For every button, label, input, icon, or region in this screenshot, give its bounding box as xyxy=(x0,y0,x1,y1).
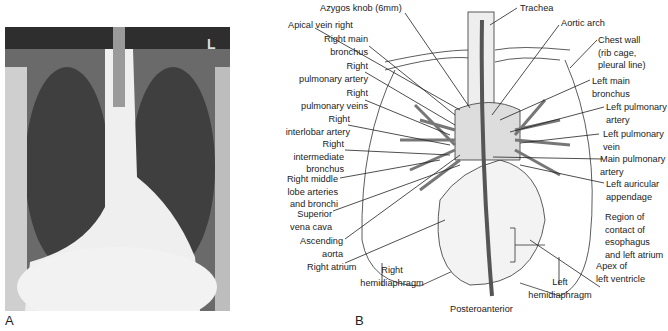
label-right-interlobar-artery: Rightinterlobar artery xyxy=(270,113,350,138)
label-right-pulmonary-veins: Rightpulmonary veins xyxy=(280,87,368,112)
label-right-main-bronchus: Right mainbronchus xyxy=(290,33,368,58)
label-trachea: Trachea xyxy=(520,2,553,15)
label-apical-vein-right: Apical vein right xyxy=(288,19,353,32)
label-aortic-arch: Aortic arch xyxy=(561,17,605,30)
label-right-pulmonary-artery: Rightpulmonary artery xyxy=(280,60,368,85)
label-right-middle-lobe: Right middlelobe arteriesand bronchi xyxy=(260,173,338,211)
label-region-of-contact: Region ofcontact ofesophagusand left atr… xyxy=(605,211,663,261)
label-apex-left-ventricle: Apex ofleft ventricle xyxy=(596,260,645,285)
label-left-main-bronchus: Left mainbronchus xyxy=(592,75,630,100)
label-left-pulmonary-artery: Left pulmonaryartery xyxy=(606,101,667,126)
label-left-hemidiaphragm: Lefthemidiaphragm xyxy=(520,276,600,301)
label-ascending-aorta: Ascendingaorta xyxy=(260,235,343,260)
label-right-intermediate-bronchus: Rightintermediatebronchus xyxy=(270,138,344,176)
label-left-pulmonary-vein: Left pulmonaryvein xyxy=(603,128,664,153)
label-chest-wall: Chest wall(rib cage,pleural line) xyxy=(598,34,646,72)
label-main-pulmonary-artery: Main pulmonaryartery xyxy=(600,153,665,178)
label-azygos-knob: Azygos knob (6mm) xyxy=(320,2,402,15)
label-left-auricular-appendage: Left auricularappendage xyxy=(606,178,659,203)
label-right-hemidiaphragm: Righthemidiaphragm xyxy=(352,264,432,289)
label-superior-vena-cava: Superiorvena cava xyxy=(260,208,332,233)
label-right-atrium: Right atrium xyxy=(307,261,357,274)
